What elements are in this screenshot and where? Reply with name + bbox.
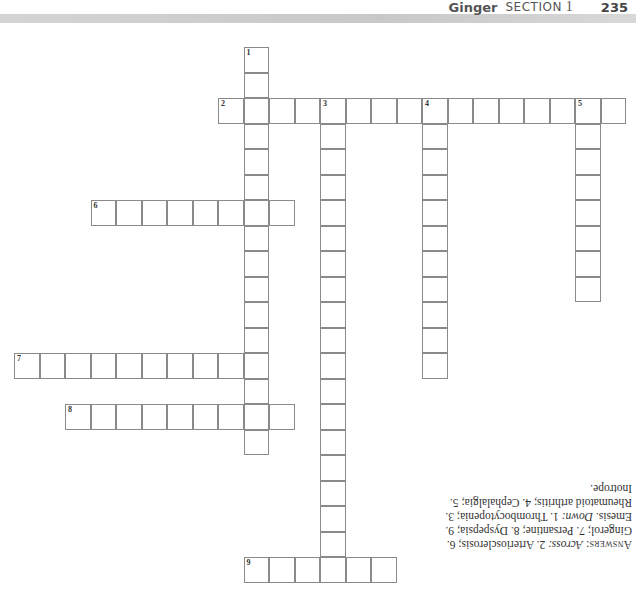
crossword-cell[interactable]	[244, 73, 270, 99]
crossword-cell[interactable]	[422, 175, 448, 201]
crossword-cell[interactable]	[320, 277, 346, 303]
crossword-cell[interactable]	[320, 175, 346, 201]
crossword-cell[interactable]	[320, 200, 346, 226]
crossword-cell[interactable]	[269, 98, 295, 124]
crossword-cell[interactable]	[244, 251, 270, 277]
crossword-cell[interactable]: 8	[65, 404, 91, 430]
crossword-cell[interactable]	[269, 200, 295, 226]
crossword-cell[interactable]	[397, 98, 423, 124]
crossword-cell[interactable]	[142, 353, 168, 379]
clue-number: 9	[247, 558, 251, 567]
crossword-cell[interactable]	[193, 404, 219, 430]
crossword-cell[interactable]	[244, 149, 270, 175]
crossword-cell[interactable]	[371, 557, 397, 583]
crossword-cell[interactable]	[601, 98, 627, 124]
crossword-cell[interactable]: 1	[244, 47, 270, 73]
crossword-cell[interactable]: 3	[320, 98, 346, 124]
crossword-cell[interactable]	[575, 226, 601, 252]
crossword-cell[interactable]	[499, 98, 525, 124]
crossword-cell[interactable]	[244, 302, 270, 328]
crossword-cell[interactable]	[244, 430, 270, 456]
crossword-cell[interactable]	[346, 557, 372, 583]
crossword-cell[interactable]	[320, 455, 346, 481]
crossword-cell[interactable]	[320, 379, 346, 405]
crossword-cell[interactable]	[422, 277, 448, 303]
crossword-cell[interactable]	[575, 251, 601, 277]
crossword-cell[interactable]	[295, 557, 321, 583]
crossword-cell[interactable]	[422, 149, 448, 175]
crossword-cell[interactable]	[65, 353, 91, 379]
crossword-cell[interactable]	[167, 404, 193, 430]
crossword-cell[interactable]	[422, 124, 448, 150]
crossword-cell[interactable]	[244, 328, 270, 354]
crossword-cell[interactable]: 5	[575, 98, 601, 124]
crossword-cell[interactable]	[575, 277, 601, 303]
crossword-cell[interactable]	[116, 353, 142, 379]
crossword-cell[interactable]	[575, 124, 601, 150]
clue-number: 6	[94, 201, 98, 210]
crossword-cell[interactable]	[448, 98, 474, 124]
crossword-cell[interactable]	[422, 200, 448, 226]
crossword-cell[interactable]	[244, 404, 270, 430]
crossword-cell[interactable]	[320, 149, 346, 175]
crossword-cell[interactable]	[575, 175, 601, 201]
crossword-cell[interactable]	[244, 353, 270, 379]
crossword-cell[interactable]	[193, 200, 219, 226]
crossword-cell[interactable]	[91, 353, 117, 379]
crossword-cell[interactable]	[40, 353, 66, 379]
crossword-cell[interactable]	[320, 302, 346, 328]
crossword-cell[interactable]	[422, 251, 448, 277]
crossword-cell[interactable]	[320, 532, 346, 558]
crossword-cell[interactable]	[550, 98, 576, 124]
crossword-cell[interactable]	[116, 404, 142, 430]
crossword-cell[interactable]	[320, 353, 346, 379]
crossword-cell[interactable]	[244, 379, 270, 405]
crossword-cell[interactable]	[142, 200, 168, 226]
answers-key: Answers: Across: 2. Arteriosclerosis; 6.…	[410, 482, 632, 552]
crossword-cell[interactable]	[320, 481, 346, 507]
crossword-cell[interactable]: 7	[14, 353, 40, 379]
crossword-cell[interactable]	[575, 200, 601, 226]
crossword-cell[interactable]: 6	[91, 200, 117, 226]
crossword-cell[interactable]	[218, 353, 244, 379]
crossword-cell[interactable]	[320, 557, 346, 583]
crossword-cell[interactable]	[524, 98, 550, 124]
crossword-cell[interactable]	[320, 506, 346, 532]
crossword-cell[interactable]: 2	[218, 98, 244, 124]
crossword-cell[interactable]	[218, 404, 244, 430]
crossword-cell[interactable]	[575, 149, 601, 175]
crossword-cell[interactable]	[371, 98, 397, 124]
crossword-cell[interactable]	[422, 353, 448, 379]
crossword-cell[interactable]	[193, 353, 219, 379]
down-label: Down:	[562, 511, 593, 523]
crossword-cell[interactable]: 9	[244, 557, 270, 583]
crossword-cell[interactable]	[320, 404, 346, 430]
crossword-cell[interactable]	[142, 404, 168, 430]
crossword-cell[interactable]	[218, 200, 244, 226]
crossword-cell[interactable]	[269, 404, 295, 430]
crossword-cell[interactable]	[422, 302, 448, 328]
crossword-cell[interactable]	[320, 124, 346, 150]
crossword-cell[interactable]	[91, 404, 117, 430]
crossword-cell[interactable]	[320, 251, 346, 277]
crossword-cell[interactable]	[116, 200, 142, 226]
crossword-cell[interactable]: 4	[422, 98, 448, 124]
crossword-cell[interactable]	[244, 124, 270, 150]
clue-number: 2	[221, 99, 225, 108]
crossword-cell[interactable]	[422, 328, 448, 354]
crossword-cell[interactable]	[269, 557, 295, 583]
crossword-cell[interactable]	[244, 277, 270, 303]
crossword-cell[interactable]	[346, 98, 372, 124]
crossword-cell[interactable]	[320, 328, 346, 354]
crossword-cell[interactable]	[167, 200, 193, 226]
crossword-cell[interactable]	[244, 175, 270, 201]
crossword-cell[interactable]	[244, 226, 270, 252]
crossword-cell[interactable]	[167, 353, 193, 379]
crossword-cell[interactable]	[295, 98, 321, 124]
crossword-cell[interactable]	[244, 200, 270, 226]
crossword-cell[interactable]	[320, 430, 346, 456]
crossword-cell[interactable]	[422, 226, 448, 252]
crossword-cell[interactable]	[244, 98, 270, 124]
crossword-cell[interactable]	[320, 226, 346, 252]
crossword-cell[interactable]	[473, 98, 499, 124]
